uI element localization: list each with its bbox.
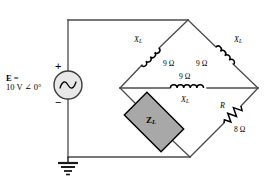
wire-arm-bottom-left-b (172, 140, 190, 157)
source-label: E = 10 V ∠ 0° (6, 74, 58, 92)
resistor-label: R (220, 102, 225, 110)
load-subscript: L (152, 118, 156, 125)
inductor-top-left-subscript: L (139, 38, 142, 44)
inductor-top-right-label: XL (234, 36, 242, 44)
inductor-middle-label: XL (181, 96, 189, 104)
wire-arm-bottom-right-a (241, 88, 258, 106)
wire-arm-top-right-b (233, 64, 258, 88)
wire-arm-top-left-a (159, 20, 188, 48)
inductor-top-left-label: XL (134, 36, 142, 44)
source-minus-sign: − (55, 97, 61, 109)
wire-arm-top-left-b (120, 65, 142, 88)
voltage-source-symbol (54, 71, 82, 99)
inductor-middle-value: 9 Ω (179, 73, 190, 81)
inductor-top-right-value: 9 Ω (196, 60, 207, 68)
inductor-top-left-symbol (141, 48, 161, 68)
load-impedance-label: ZL (146, 116, 156, 126)
source-plus-sign: + (55, 61, 61, 73)
wire-arm-bottom-right-b (190, 123, 224, 157)
resistor-value: 8 Ω (234, 126, 245, 134)
ground-icon (58, 157, 78, 175)
inductor-middle-subscript: L (186, 98, 189, 104)
inductor-top-right-symbol (216, 45, 236, 65)
inductor-top-left-value: 9 Ω (163, 60, 174, 68)
inductor-top-right-subscript: L (239, 38, 242, 44)
circuit-schematic (0, 0, 268, 185)
inductor-middle-symbol (171, 85, 204, 88)
circuit-diagram: E = 10 V ∠ 0° + − XL 9 Ω XL 9 Ω 9 Ω XL R… (0, 0, 268, 185)
wire-arm-bottom-left-a (120, 88, 136, 104)
wire-arm-top-right-a (188, 20, 216, 47)
source-label-line2: 10 V ∠ 0° (6, 83, 58, 92)
